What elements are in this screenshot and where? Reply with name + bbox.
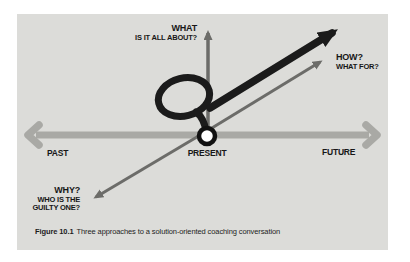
future-label: FUTURE: [322, 147, 355, 157]
figure-caption-text: Three approaches to a solution-oriented …: [77, 227, 281, 236]
figure-container: WHAT IS IT ALL ABOUT? HOW? WHAT FOR? PAS…: [0, 0, 410, 262]
why-label: WHY? WHO IS THE GUILTY ONE?: [32, 185, 80, 213]
why-subtitle2: GUILTY ONE?: [32, 204, 80, 213]
coaching-diagram: [0, 0, 410, 262]
how-label: HOW? WHAT FOR?: [336, 52, 379, 71]
solution-loop-arrow: [154, 33, 332, 133]
how-subtitle: WHAT FOR?: [336, 63, 379, 72]
present-label: PRESENT: [183, 148, 231, 158]
past-label: PAST: [47, 148, 68, 158]
figure-caption: Figure 10.1Three approaches to a solutio…: [35, 227, 280, 236]
present-marker: [199, 128, 215, 144]
loop-icon: [154, 72, 214, 121]
figure-number: Figure 10.1: [35, 227, 74, 236]
what-label: WHAT IS IT ALL ABOUT?: [135, 23, 197, 42]
what-subtitle: IS IT ALL ABOUT?: [135, 34, 197, 43]
